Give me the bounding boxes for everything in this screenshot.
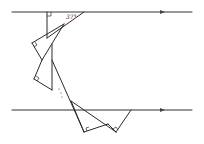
triangle-4 — [71, 101, 116, 132]
ellipsis-dots — [58, 88, 62, 97]
geometry-diagram: 37° — [0, 0, 204, 144]
arrow-marker-icon — [160, 10, 165, 14]
top-parallel-line — [12, 10, 192, 14]
angle-label: 37° — [66, 13, 77, 20]
diagram-svg: 37° — [0, 0, 204, 144]
bottom-parallel-line — [12, 108, 192, 112]
arrow-marker-icon — [160, 108, 165, 112]
right-angle-marker — [47, 12, 51, 16]
